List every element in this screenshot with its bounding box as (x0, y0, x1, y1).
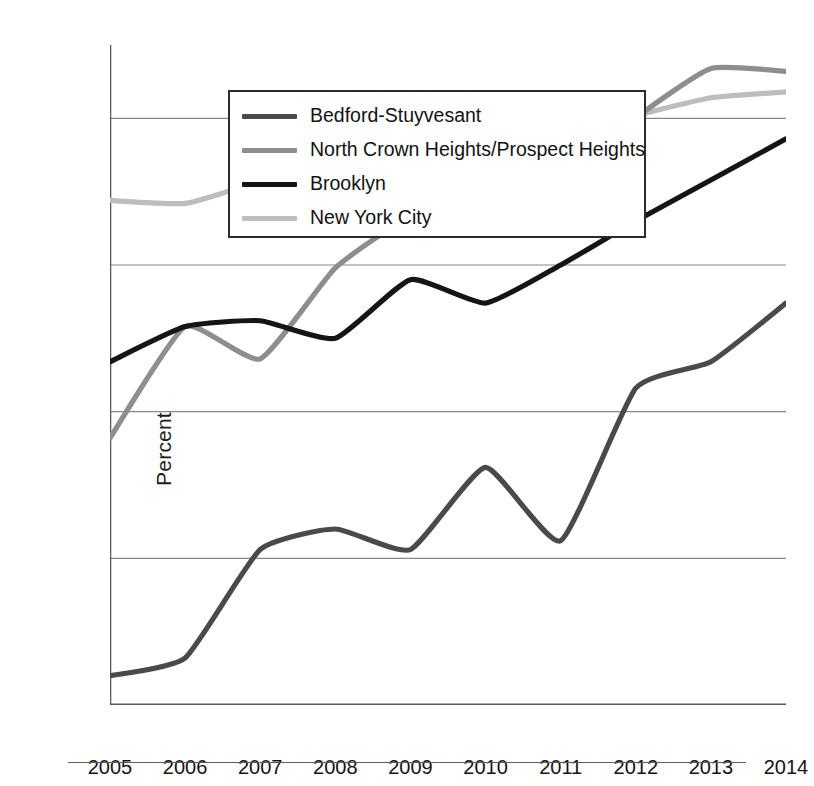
x-tick-label: 2013 (671, 757, 751, 777)
chart-figure: Percent 1520253035 200520062007200820092… (0, 0, 814, 786)
footer-divider (68, 762, 746, 763)
legend-item-label: New York City (310, 208, 431, 228)
chart-legend: Bedford-StuyvesantNorth Crown Heights/Pr… (228, 90, 646, 238)
y-axis-title: Percent (152, 379, 176, 519)
legend-item[interactable]: Bedford-Stuyvesant (230, 99, 644, 133)
x-tick-label: 2011 (521, 757, 601, 777)
legend-color-swatch (242, 182, 297, 187)
legend-item-label: Brooklyn (310, 174, 386, 194)
legend-item[interactable]: New York City (230, 201, 644, 235)
x-tick-label: 2008 (295, 757, 375, 777)
x-tick-label: 2014 (746, 757, 814, 777)
x-tick-label: 2009 (370, 757, 450, 777)
x-tick-label: 2012 (596, 757, 676, 777)
legend-color-swatch (242, 114, 297, 119)
x-tick-label: 2005 (70, 757, 150, 777)
plot-area: Percent 1520253035 200520062007200820092… (110, 45, 786, 705)
x-tick-label: 2006 (145, 757, 225, 777)
legend-item-label: North Crown Heights/Prospect Heights (310, 140, 645, 160)
series-line (110, 303, 786, 676)
legend-item[interactable]: Brooklyn (230, 167, 644, 201)
legend-color-swatch (242, 148, 297, 153)
x-tick-label: 2010 (446, 757, 526, 777)
x-tick-label: 2007 (220, 757, 300, 777)
legend-color-swatch (242, 216, 297, 221)
legend-item-label: Bedford-Stuyvesant (310, 106, 481, 126)
legend-item[interactable]: North Crown Heights/Prospect Heights (230, 133, 644, 167)
